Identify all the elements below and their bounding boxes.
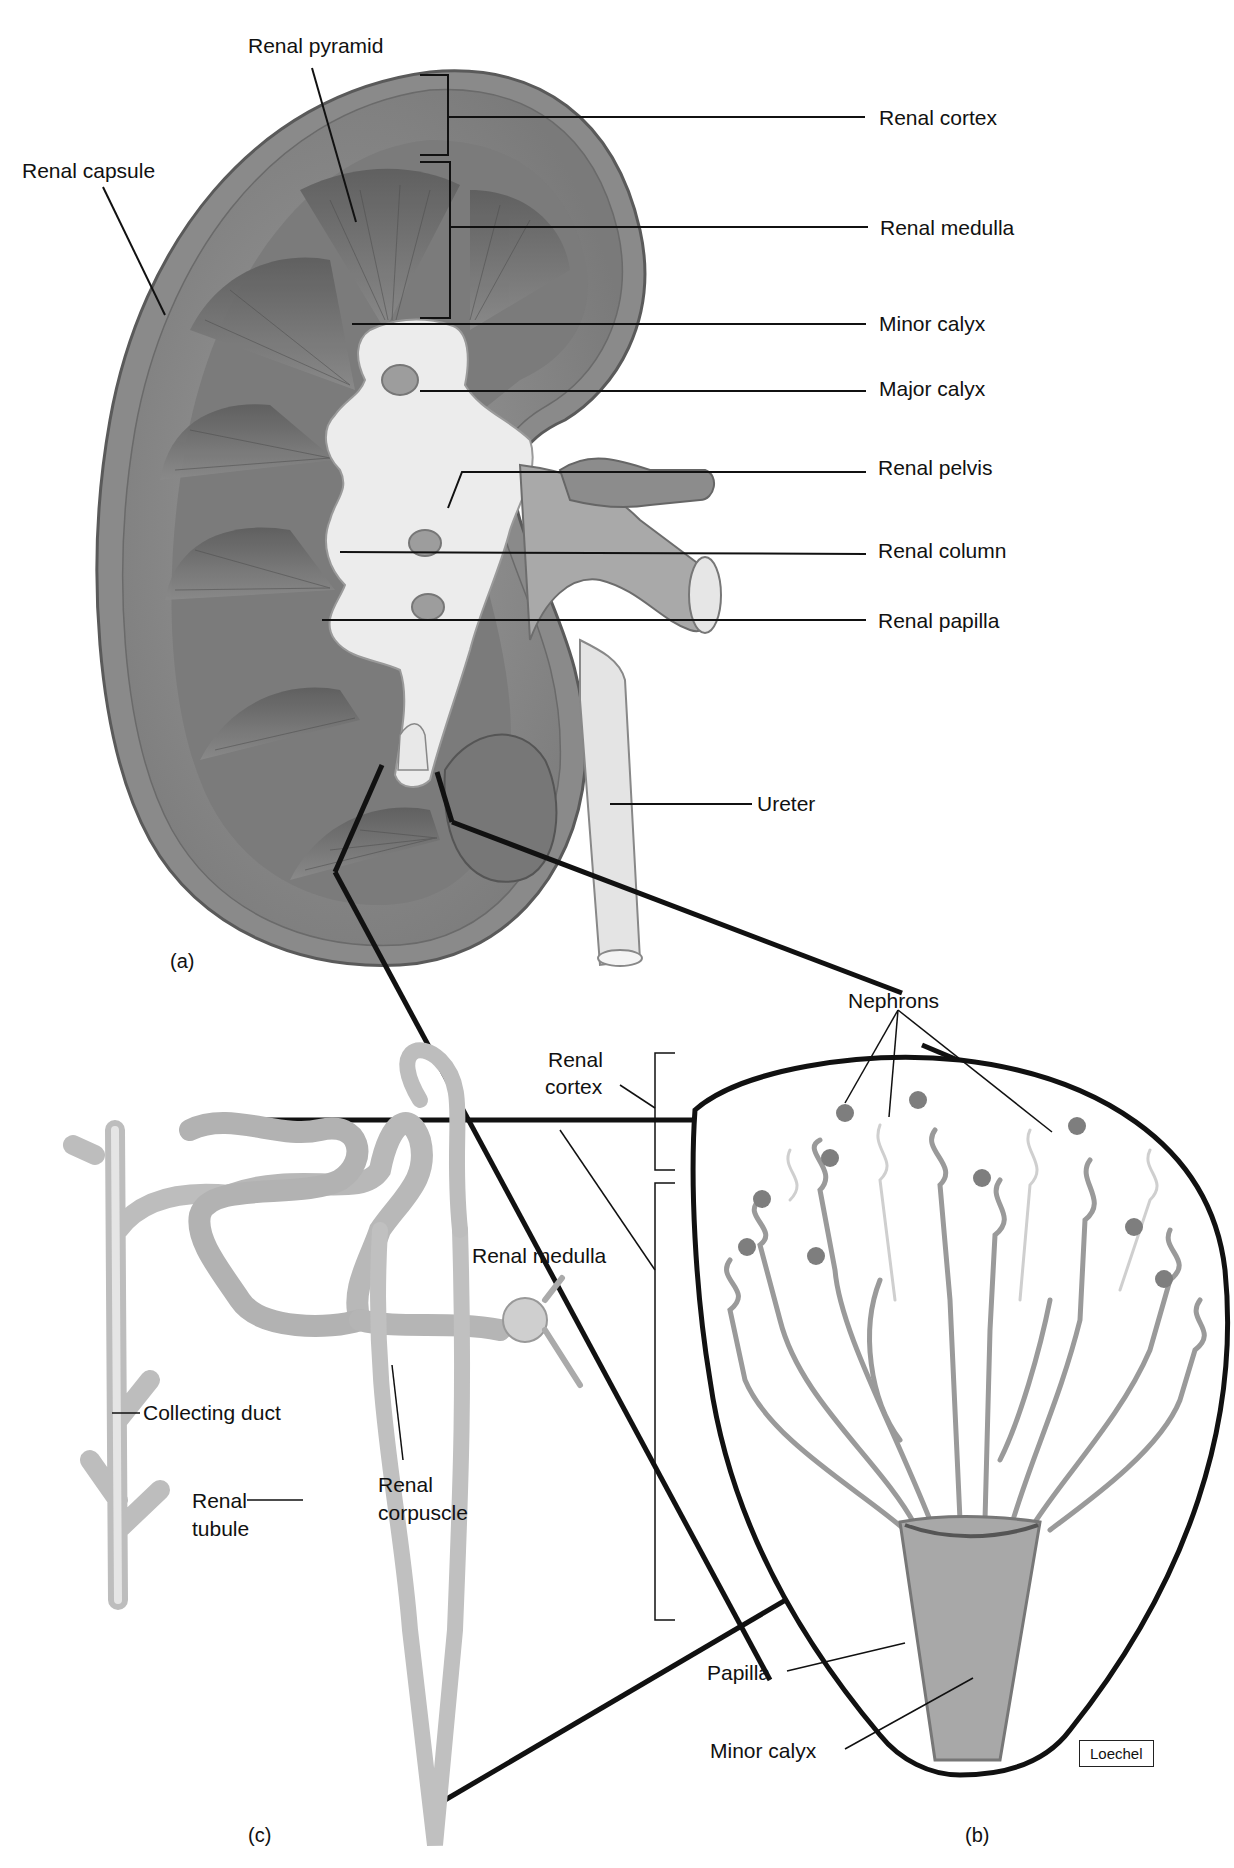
label-b-renal-cortex-line1: Renal — [548, 1047, 603, 1072]
kidney-diagram: Renal pyramid Renal capsule Renal cortex… — [0, 0, 1234, 1868]
label-renal-pyramid: Renal pyramid — [248, 33, 383, 58]
panel-tag-c: (c) — [248, 1824, 271, 1847]
label-b-renal-medulla: Renal medulla — [472, 1243, 606, 1268]
artist-signature: Loechel — [1079, 1740, 1154, 1767]
nephron-detail — [73, 1050, 580, 1845]
label-b-minor-calyx: Minor calyx — [710, 1738, 816, 1763]
label-renal-cortex: Renal cortex — [879, 105, 997, 130]
label-renal-tubule-line2: tubule — [192, 1516, 249, 1541]
pyramid-magnified — [693, 1057, 1227, 1775]
label-major-calyx: Major calyx — [879, 376, 985, 401]
ureter-shape — [580, 640, 640, 965]
label-renal-corpuscle-line1: Renal — [378, 1472, 433, 1497]
label-ureter: Ureter — [757, 791, 815, 816]
label-nephrons: Nephrons — [848, 988, 939, 1013]
renal-corpuscle-shape — [503, 1298, 547, 1342]
diagram-artwork — [0, 0, 1234, 1868]
label-papilla: Papilla — [707, 1660, 770, 1685]
label-collecting-duct: Collecting duct — [143, 1400, 281, 1425]
label-b-renal-cortex-line2: cortex — [545, 1074, 602, 1099]
label-minor-calyx: Minor calyx — [879, 311, 985, 336]
label-renal-papilla: Renal papilla — [878, 608, 999, 633]
label-renal-capsule: Renal capsule — [22, 158, 155, 183]
label-renal-medulla: Renal medulla — [880, 215, 1014, 240]
panel-tag-b: (b) — [965, 1824, 989, 1847]
panel-tag-a: (a) — [170, 950, 194, 973]
label-renal-column: Renal column — [878, 538, 1006, 563]
label-renal-corpuscle-line2: corpuscle — [378, 1500, 468, 1525]
label-renal-tubule-line1: Renal — [192, 1488, 247, 1513]
kidney-section — [97, 71, 721, 966]
label-renal-pelvis: Renal pelvis — [878, 455, 992, 480]
